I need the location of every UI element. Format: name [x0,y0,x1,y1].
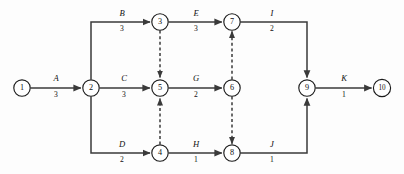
node-label: 6 [230,83,234,92]
node-1[interactable]: 1 [14,80,30,96]
activity-label-J: J 1 [270,139,275,164]
activity-label-I: I 2 [270,8,275,33]
network-canvas: 1 2 3 4 5 6 7 8 [0,0,404,174]
node-label: 3 [158,17,162,26]
activity-label-E: E 3 [192,8,199,33]
node-2[interactable]: 2 [83,80,99,96]
activity-name: A [52,73,59,83]
activity-name: C [121,73,127,83]
node-label: 1 [20,83,24,92]
activity-label-K: K 1 [340,73,348,99]
node-label: 9 [305,83,309,92]
node-label: 10 [378,84,386,92]
activity-label-A: A 3 [52,73,59,99]
activity-duration: 3 [120,24,124,33]
node-label: 2 [89,83,93,92]
activity-label-C: C 3 [121,73,127,99]
activity-name: E [192,8,199,18]
activity-duration: 2 [270,24,274,33]
activity-label-D: D 2 [118,139,126,164]
activity-name: I [270,8,275,18]
activity-name: J [270,139,275,149]
activity-label-B: B 3 [119,8,125,33]
node-label: 5 [158,83,162,92]
node-7[interactable]: 7 [224,14,240,30]
node-8[interactable]: 8 [224,145,240,161]
node-9[interactable]: 9 [299,80,315,96]
node-10[interactable]: 10 [373,79,390,96]
node-6[interactable]: 6 [224,80,240,96]
node-4[interactable]: 4 [152,145,168,161]
activity-duration: 2 [120,155,124,164]
activity-name: B [119,8,125,18]
activity-duration: 3 [194,24,198,33]
activity-network-diagram: 1 2 3 4 5 6 7 8 [0,0,404,174]
activity-duration: 3 [122,90,126,99]
activity-name: H [192,139,200,149]
activity-name: G [193,73,200,83]
activity-duration: 1 [194,155,198,164]
node-label: 4 [158,148,162,157]
activity-duration: 2 [194,90,198,99]
node-label: 8 [230,148,234,157]
activity-duration: 1 [342,90,346,99]
node-5[interactable]: 5 [152,80,168,96]
activity-duration: 3 [54,90,58,99]
node-3[interactable]: 3 [152,14,168,30]
activity-duration: 1 [270,155,274,164]
activity-name: K [340,73,348,83]
node-label: 7 [230,17,234,26]
activity-label-G: G 2 [193,73,200,99]
activity-label-H: H 1 [192,139,200,164]
activity-name: D [118,139,126,149]
